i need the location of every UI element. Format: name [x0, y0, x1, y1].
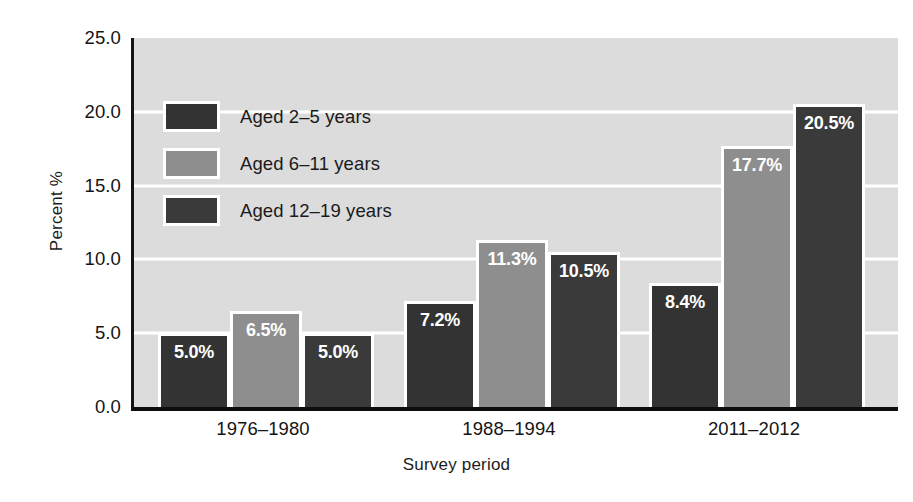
y-tick-label: 25.0 — [51, 27, 121, 49]
bar-value-label: 10.5% — [551, 261, 617, 282]
legend-swatch-icon — [163, 195, 220, 226]
legend-swatch-icon — [163, 148, 220, 179]
bar-value-label: 7.2% — [407, 310, 473, 331]
y-tick-label: 5.0 — [51, 322, 121, 344]
y-tick-label: 0.0 — [51, 396, 121, 418]
chart-legend: Aged 2–5 yearsAged 6–11 yearsAged 12–19 … — [163, 101, 392, 226]
bar: 20.5% — [793, 104, 865, 407]
bar-chart-figure: Percent % 25.020.015.010.05.00.0 5.0%6.5… — [0, 0, 913, 502]
bar-value-label: 17.7% — [724, 155, 790, 176]
x-axis-title: Survey period — [0, 455, 913, 475]
x-tick-label: 1976–1980 — [143, 418, 383, 440]
legend-label: Aged 6–11 years — [240, 153, 380, 175]
bar-value-label: 20.5% — [796, 113, 862, 134]
bar: 10.5% — [548, 252, 620, 407]
bar-value-label: 6.5% — [233, 320, 299, 341]
legend-item[interactable]: Aged 12–19 years — [163, 195, 392, 226]
y-tick-label: 20.0 — [51, 101, 121, 123]
y-tick-label: 10.0 — [51, 248, 121, 270]
bar: 17.7% — [721, 146, 793, 407]
bar-value-label: 11.3% — [479, 249, 545, 270]
x-tick-label: 2011–2012 — [634, 418, 874, 440]
legend-label: Aged 12–19 years — [240, 200, 392, 222]
bar: 5.0% — [158, 333, 230, 407]
bar: 8.4% — [649, 283, 721, 407]
y-tick-label: 15.0 — [51, 175, 121, 197]
legend-swatch-icon — [163, 101, 220, 132]
bar: 7.2% — [404, 301, 476, 407]
x-tick-label: 1988–1994 — [389, 418, 629, 440]
y-axis-tick-labels: 25.020.015.010.05.00.0 — [47, 0, 121, 502]
legend-item[interactable]: Aged 2–5 years — [163, 101, 392, 132]
legend-item[interactable]: Aged 6–11 years — [163, 148, 392, 179]
bar-value-label: 5.0% — [161, 342, 227, 363]
bar: 6.5% — [230, 311, 302, 407]
legend-label: Aged 2–5 years — [240, 106, 371, 128]
bar: 5.0% — [302, 333, 374, 407]
bar-value-label: 5.0% — [305, 342, 371, 363]
bar: 11.3% — [476, 240, 548, 407]
plot-area: 5.0%6.5%5.0%7.2%11.3%10.5%8.4%17.7%20.5%… — [131, 38, 898, 411]
bar-value-label: 8.4% — [652, 292, 718, 313]
